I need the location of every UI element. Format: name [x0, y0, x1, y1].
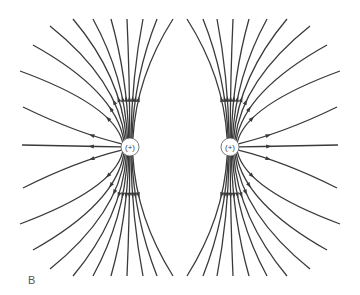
field-line	[234, 155, 287, 276]
field-line	[23, 107, 122, 144]
arrow-icon	[111, 189, 117, 196]
field-line	[239, 145, 338, 147]
field-line	[22, 145, 121, 147]
arrow-icon	[111, 99, 117, 106]
field-line	[237, 152, 340, 224]
arrow-icon	[243, 99, 249, 106]
charges: (+)(+)	[121, 138, 239, 156]
charge-sign-label: (+)	[225, 143, 235, 152]
figure-label: B	[28, 274, 35, 286]
arrow-icon	[239, 192, 244, 198]
field-line	[20, 71, 123, 142]
charge-right: (+)	[221, 138, 239, 156]
arrow-icon	[266, 144, 272, 148]
field-line	[23, 150, 122, 188]
field-line	[237, 71, 340, 142]
arrow-icon	[243, 189, 249, 196]
charge-left: (+)	[121, 138, 139, 156]
arrow-icon	[116, 192, 121, 198]
arrow-icon	[239, 96, 244, 102]
arrow-icon	[88, 133, 94, 139]
arrow-icon	[265, 133, 271, 139]
field-lines	[20, 19, 340, 276]
charge-sign-label: (+)	[125, 143, 135, 152]
arrow-icon	[88, 144, 94, 148]
arrow-icon	[88, 156, 94, 162]
field-line	[20, 152, 123, 224]
field-line-diagram: (+)(+)	[0, 0, 360, 295]
field-line	[238, 150, 337, 188]
field-line	[238, 107, 337, 144]
arrow-icon	[265, 156, 271, 162]
